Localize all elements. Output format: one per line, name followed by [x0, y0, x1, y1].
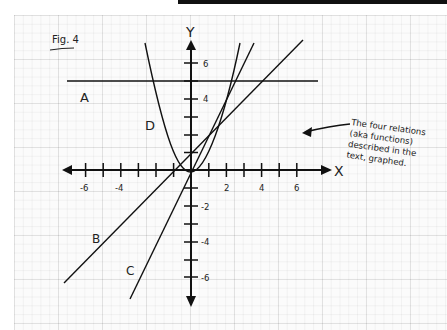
line-b [64, 40, 303, 283]
y-tick-label: -2 [201, 202, 209, 212]
arrow-right-icon [321, 165, 332, 175]
x-tick-label: 6 [294, 183, 299, 193]
x-tick-label: 2 [224, 183, 229, 193]
figure-label: Fig. 4 [52, 34, 79, 45]
y-tick-label: -6 [201, 273, 209, 283]
y-tick-label: 4 [203, 94, 208, 104]
x-tick-label: -6 [80, 183, 88, 193]
y-tick-label: -4 [201, 237, 209, 247]
x-axis-label: X [334, 163, 344, 179]
y-axis: 6 4 -2 -4 -6 Y [184, 24, 209, 307]
x-tick-label: 4 [259, 183, 264, 193]
series-label-d: D [145, 118, 155, 133]
figure-label-underline [50, 48, 74, 50]
series-label-a: A [80, 90, 89, 105]
arrow-up-icon [186, 40, 196, 50]
y-axis-label: Y [185, 24, 195, 40]
arrow-down-icon [186, 296, 196, 307]
arrow-left-icon [62, 165, 72, 175]
y-tick-label: 6 [203, 59, 208, 69]
arrowhead-icon [302, 127, 312, 137]
series-label-c: C [126, 264, 134, 278]
x-axis: -6 -4 2 4 6 X [62, 163, 344, 193]
x-tick-label: -4 [115, 183, 123, 193]
series-label-b: B [92, 232, 100, 246]
